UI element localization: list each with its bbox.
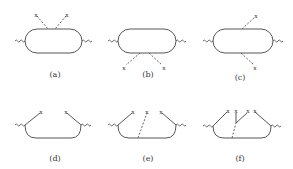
wavy-line-right: [273, 40, 283, 42]
panel-label-c: (c): [235, 73, 246, 82]
cross-icon: x: [246, 107, 250, 114]
dashed-line: [149, 53, 162, 65]
wavy-line-right: [176, 124, 186, 126]
cross-icon: x: [226, 107, 230, 114]
open-loop: [213, 126, 271, 138]
solid-leg: [25, 113, 40, 125]
cross-icon: x: [234, 107, 238, 114]
cross-icon: x: [162, 64, 166, 71]
solid-leg: [255, 112, 271, 126]
dashed-line: [242, 17, 255, 29]
solid-leg: [236, 113, 247, 123]
cross-icon: x: [39, 108, 43, 115]
panel-label-f: (f): [235, 154, 244, 163]
panel-f-diagram: x x x x: [203, 107, 281, 139]
panel-b-diagram: x x: [108, 29, 186, 71]
loop: [213, 29, 273, 53]
wavy-line-left: [108, 40, 118, 42]
wavy-line-left: [203, 125, 213, 127]
solid-leg: [213, 112, 227, 126]
dashed-line: [241, 53, 254, 65]
panel-a-diagram: x x: [15, 11, 92, 54]
panel-label-a: (a): [49, 70, 60, 79]
open-loop: [118, 125, 176, 138]
wavy-line-left: [108, 124, 118, 126]
cross-icon: x: [122, 64, 126, 71]
cross-icon: x: [253, 64, 257, 71]
panel-label-d: (d): [49, 154, 60, 163]
cross-icon: x: [131, 108, 135, 115]
wavy-line-right: [271, 125, 281, 127]
dashed-line: [138, 113, 147, 138]
wavy-line-right: [81, 124, 91, 126]
wavy-line-left: [15, 40, 25, 42]
panel-label-e: (e): [143, 154, 154, 163]
dashed-line: [37, 16, 48, 29]
solid-leg: [162, 113, 176, 125]
dashed-line: [232, 123, 236, 138]
cross-icon: x: [145, 108, 149, 115]
loop: [25, 29, 82, 53]
dashed-line: [126, 53, 140, 65]
dashed-line: [55, 16, 66, 29]
cross-icon: x: [65, 11, 69, 18]
feynman-diagram-figure: x x x x x x x x x x: [0, 0, 293, 169]
solid-leg: [67, 113, 81, 125]
panel-e-diagram: x x x: [108, 108, 186, 139]
solid-leg: [118, 113, 132, 125]
cross-icon: x: [253, 107, 257, 114]
wavy-line-right: [82, 40, 92, 42]
wavy-line-right: [176, 40, 186, 42]
panel-d-diagram: x x: [15, 108, 91, 139]
loop: [118, 29, 176, 53]
panel-c-diagram: x x: [203, 12, 283, 71]
panel-label-b: (b): [142, 70, 153, 79]
wavy-line-left: [15, 124, 25, 126]
cross-icon: x: [254, 12, 258, 19]
open-loop: [25, 125, 81, 138]
wavy-line-left: [203, 40, 213, 42]
